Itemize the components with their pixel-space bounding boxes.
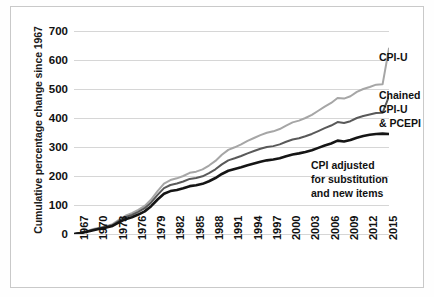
x-tick-label: 2000	[290, 216, 302, 240]
series-label-adjusted-line1: CPI adjusted	[311, 159, 388, 173]
series-label-chained-line1: Chained	[379, 89, 421, 103]
x-tick-label: 2006	[329, 216, 341, 240]
series-label-cpi-u-line1: CPI-U	[379, 51, 408, 65]
plot-area: 0100200300400500600700	[74, 31, 389, 234]
x-tick-label: 2012	[367, 216, 379, 240]
y-tick-label: 500	[49, 83, 68, 95]
x-tick-label: 2003	[309, 216, 321, 240]
x-tick-label: 1982	[174, 216, 186, 240]
y-tick-label: 300	[49, 141, 68, 153]
chart-frame: Cumulative percentage change since 1967 …	[10, 6, 424, 288]
series-label-chained-line3: & PCEPI	[379, 117, 421, 131]
x-tick-label: 1970	[97, 216, 109, 240]
y-tick-label: 200	[49, 170, 68, 182]
x-tick-label: 1997	[271, 216, 283, 240]
x-tick-label: 1973	[117, 216, 129, 240]
series-label-adjusted-line2: for substitution	[311, 173, 388, 187]
series-label-cpi-adjusted: CPI adjusted for substitution and new it…	[311, 159, 388, 201]
y-tick-label: 600	[49, 54, 68, 66]
x-tick-label: 2015	[387, 216, 399, 240]
x-tick-label: 2009	[348, 216, 360, 240]
series-lines	[74, 31, 389, 234]
series-label-cpi-u: CPI-U	[379, 51, 408, 65]
x-tick-label: 1991	[232, 216, 244, 240]
x-tick-label: 1994	[252, 216, 264, 240]
y-tick-label: 400	[49, 112, 68, 124]
chart-figure: Cumulative percentage change since 1967 …	[0, 0, 434, 297]
x-tick-label: 1979	[155, 216, 167, 240]
y-tick-label: 700	[49, 25, 68, 37]
x-tick-label: 1985	[194, 216, 206, 240]
x-tick-label: 1967	[78, 216, 90, 240]
series-label-chained-line2: CPI-U	[379, 103, 421, 117]
x-tick-label: 1988	[213, 216, 225, 240]
x-tick-label: 1976	[136, 216, 148, 240]
y-tick-label: 0	[62, 228, 68, 240]
series-label-chained-cpi-u-pcepi: Chained CPI-U & PCEPI	[379, 89, 421, 131]
y-tick-label: 100	[49, 199, 68, 211]
y-axis-title: Cumulative percentage change since 1967	[32, 10, 44, 250]
series-label-adjusted-line3: and new items	[311, 187, 388, 201]
